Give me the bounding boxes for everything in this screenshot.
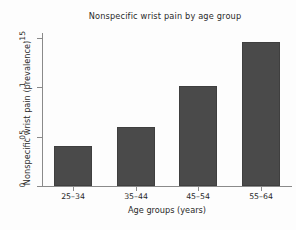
- x-axis-tick-label: 45–54: [173, 192, 223, 202]
- bar-55-64: [242, 42, 280, 186]
- x-axis-tick-label: 25–34: [48, 192, 98, 202]
- y-axis-tick-label: .1: [19, 73, 27, 99]
- x-axis-line: [42, 186, 292, 187]
- y-axis-tick-label-wrap: .1: [6, 82, 36, 92]
- y-axis-tick-label: .05: [19, 123, 27, 149]
- y-axis-tick: [37, 137, 42, 138]
- x-axis-tick: [261, 187, 262, 191]
- x-axis-tick-label: 35–44: [111, 192, 161, 202]
- bar-35-44: [117, 127, 155, 186]
- chart-figure: Nonspecific wrist pain by age group Nons…: [0, 0, 296, 230]
- y-axis-tick-label: 0: [19, 172, 27, 198]
- bar-45-54: [179, 86, 217, 186]
- x-axis-tick-label: 55–64: [236, 192, 286, 202]
- x-axis-tick: [73, 187, 74, 191]
- chart-title: Nonspecific wrist pain by age group: [40, 11, 290, 21]
- y-axis-tick-label-wrap: 0: [6, 181, 36, 191]
- y-axis-tick-label-wrap: .15: [6, 33, 36, 43]
- y-axis-tick: [37, 38, 42, 39]
- y-axis-tick: [37, 186, 42, 187]
- y-axis-tick-label-wrap: .05: [6, 132, 36, 142]
- y-axis-line: [42, 33, 43, 186]
- x-axis-tick: [136, 187, 137, 191]
- y-axis-title: Nonspecific wrist pain (prevalence): [22, 33, 32, 193]
- bar-25-34: [54, 146, 92, 186]
- x-axis-title: Age groups (years): [42, 205, 292, 215]
- x-axis-tick: [198, 187, 199, 191]
- y-axis-tick-label: .15: [19, 24, 27, 50]
- y-axis-tick: [37, 87, 42, 88]
